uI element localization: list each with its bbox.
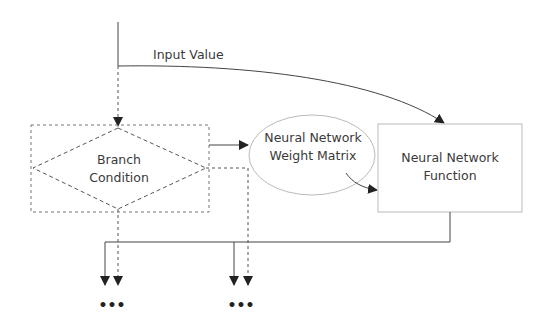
branch-diamond-outline <box>33 128 206 209</box>
input-value-curve-arrow <box>118 66 444 123</box>
control-flow-diagram: Input Value Branch Condition Neural Netw… <box>0 0 548 324</box>
branch-output-right-dashed <box>206 168 248 285</box>
weights-label-line2: Weight Matrix <box>270 148 357 163</box>
weights-label-line1: Neural Network <box>264 130 362 145</box>
left-output-ellipsis: ••• <box>99 297 126 313</box>
input-value-label: Input Value <box>153 47 224 62</box>
branch-label-line2: Condition <box>89 170 149 185</box>
weights-to-function-arrow <box>346 173 377 190</box>
branch-label-line1: Branch <box>97 152 141 167</box>
right-output-ellipsis: ••• <box>228 297 255 313</box>
function-output-line <box>105 212 450 242</box>
function-label-line1: Neural Network <box>401 150 499 165</box>
function-label-line2: Function <box>423 168 476 183</box>
branch-condition-box <box>31 125 209 212</box>
